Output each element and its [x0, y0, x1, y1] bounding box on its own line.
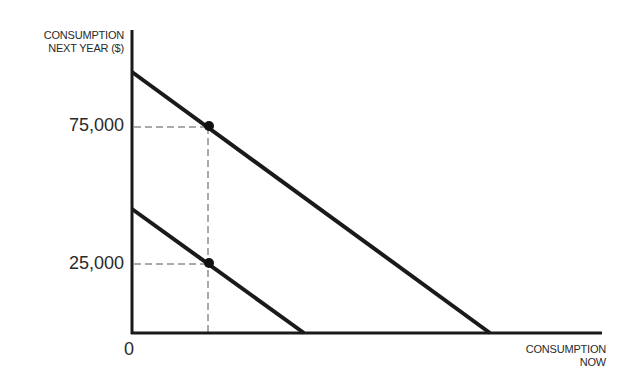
y-axis-label-line2: NEXT YEAR ($) — [2, 42, 124, 55]
dashed-guides — [134, 127, 208, 333]
origin-label: 0 — [124, 339, 134, 360]
y-tick-25000: 25,000 — [14, 253, 124, 274]
point-upper — [204, 121, 214, 131]
point-lower — [204, 258, 214, 268]
lower-budget-line — [132, 209, 304, 333]
x-axis-label: CONSUMPTION NOW — [480, 343, 606, 369]
chart-canvas — [0, 0, 641, 389]
x-axis-label-line2: NOW — [480, 356, 606, 369]
y-axis-label-line1: CONSUMPTION — [2, 29, 124, 42]
upper-budget-line — [132, 72, 490, 333]
y-axis-label: CONSUMPTION NEXT YEAR ($) — [2, 29, 124, 55]
y-tick-75000: 75,000 — [14, 115, 124, 136]
x-axis-label-line1: CONSUMPTION — [480, 343, 606, 356]
